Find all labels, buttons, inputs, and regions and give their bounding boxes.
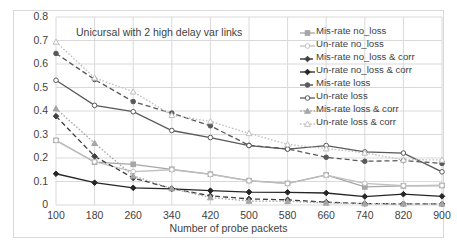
data-point bbox=[53, 171, 59, 177]
data-point bbox=[285, 147, 290, 152]
data-point bbox=[324, 173, 329, 178]
legend-label: Mis-rate loss & corr bbox=[316, 103, 399, 115]
data-point bbox=[440, 170, 445, 175]
data-point bbox=[208, 135, 213, 140]
legend-label: Mis-rate loss bbox=[316, 77, 370, 89]
x-tick-label: 820 bbox=[383, 209, 423, 221]
x-tick-label: 900 bbox=[422, 209, 457, 221]
chart-legend: Mis-rate no_lossUn-rate no_lossMis-rate … bbox=[299, 24, 449, 129]
legend-marker-icon bbox=[299, 25, 316, 37]
legend-item[interactable]: Un-rate loss bbox=[299, 89, 449, 102]
data-point bbox=[362, 194, 368, 200]
y-tick-label: 0.1 bbox=[16, 175, 48, 187]
data-point bbox=[170, 167, 175, 172]
data-point bbox=[208, 188, 214, 194]
y-tick-label: 0.5 bbox=[16, 81, 48, 93]
y-tick-label: 0.3 bbox=[16, 128, 48, 140]
legend-marker-icon bbox=[299, 103, 316, 115]
x-tick-label: 740 bbox=[345, 209, 385, 221]
data-point bbox=[92, 159, 97, 164]
data-point bbox=[363, 159, 368, 164]
data-point bbox=[246, 130, 252, 135]
y-tick-label: 0.4 bbox=[16, 104, 48, 116]
data-point bbox=[92, 103, 97, 108]
data-point bbox=[130, 185, 136, 191]
legend-item[interactable]: Mis-rate no_loss & corr bbox=[299, 50, 449, 63]
y-tick-label: 0.2 bbox=[16, 151, 48, 163]
data-point bbox=[54, 51, 59, 56]
data-point bbox=[247, 143, 252, 148]
legend-label: Mis-rate no_loss & corr bbox=[316, 51, 415, 63]
x-tick-label: 180 bbox=[75, 209, 115, 221]
legend-item[interactable]: Mis-rate loss bbox=[299, 76, 449, 89]
data-point bbox=[53, 106, 59, 111]
data-point bbox=[53, 39, 59, 44]
legend-label: Un-rate loss bbox=[316, 90, 368, 102]
x-tick-label: 340 bbox=[152, 209, 192, 221]
x-tick-label: 580 bbox=[268, 209, 308, 221]
x-tick-label: 260 bbox=[113, 209, 153, 221]
legend-point bbox=[305, 96, 310, 101]
y-tick-label: 0.7 bbox=[16, 34, 48, 46]
y-tick-label: 0.8 bbox=[16, 10, 48, 22]
data-point bbox=[440, 183, 445, 188]
data-point bbox=[170, 128, 175, 133]
x-tick-label: 100 bbox=[36, 209, 76, 221]
y-tick-label: 0.6 bbox=[16, 57, 48, 69]
legend-point bbox=[305, 83, 310, 88]
legend-marker-icon bbox=[299, 90, 316, 102]
data-point bbox=[92, 180, 98, 186]
chart-title: Unicursal with 2 high delay var links bbox=[76, 26, 242, 38]
data-point bbox=[131, 99, 136, 104]
legend-label: Un-rate loss & corr bbox=[316, 116, 396, 128]
legend-label: Un-rate no_loss & corr bbox=[316, 64, 412, 76]
data-point bbox=[401, 183, 406, 188]
data-point bbox=[131, 109, 136, 114]
data-point bbox=[324, 155, 329, 160]
legend-point bbox=[305, 43, 310, 48]
data-point bbox=[401, 151, 406, 156]
data-point bbox=[401, 191, 407, 197]
x-tick-label: 500 bbox=[229, 209, 269, 221]
data-point bbox=[131, 162, 136, 167]
data-point bbox=[285, 190, 291, 196]
data-point bbox=[439, 194, 445, 200]
chart-container: 00.10.20.30.40.50.60.70.8 10018026034042… bbox=[0, 0, 457, 248]
legend-point bbox=[305, 30, 310, 35]
legend-point bbox=[305, 69, 311, 75]
data-point bbox=[323, 190, 329, 196]
data-point bbox=[208, 118, 214, 123]
legend-label: Un-rate no_loss bbox=[316, 38, 384, 50]
legend-marker-icon bbox=[299, 77, 316, 89]
legend-marker-icon bbox=[299, 116, 316, 128]
legend-item[interactable]: Un-rate no_loss bbox=[299, 37, 449, 50]
legend-item[interactable]: Mis-rate loss & corr bbox=[299, 103, 449, 116]
x-tick-label: 420 bbox=[190, 209, 230, 221]
legend-marker-icon bbox=[299, 51, 316, 63]
x-tick-label: 660 bbox=[306, 209, 346, 221]
legend-item[interactable]: Un-rate loss & corr bbox=[299, 116, 449, 129]
x-axis-title: Number of probe packets bbox=[0, 222, 457, 234]
legend-point bbox=[305, 121, 311, 126]
data-point bbox=[208, 124, 213, 129]
legend-item[interactable]: Mis-rate no_loss bbox=[299, 24, 449, 37]
data-point bbox=[363, 181, 368, 186]
data-point bbox=[246, 189, 252, 195]
data-point bbox=[208, 172, 213, 177]
legend-marker-icon bbox=[299, 64, 316, 76]
data-point bbox=[54, 78, 59, 83]
legend-marker-icon bbox=[299, 38, 316, 50]
legend-label: Mis-rate no_loss bbox=[316, 25, 386, 37]
data-point bbox=[130, 89, 136, 94]
data-point bbox=[285, 181, 290, 186]
data-point bbox=[54, 138, 59, 143]
legend-point bbox=[305, 108, 311, 113]
data-point bbox=[247, 178, 252, 183]
legend-item[interactable]: Un-rate no_loss & corr bbox=[299, 63, 449, 76]
legend-point bbox=[305, 56, 311, 62]
